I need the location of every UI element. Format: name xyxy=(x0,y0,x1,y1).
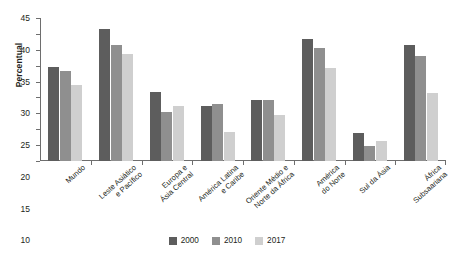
bar-2010 xyxy=(263,100,274,161)
x-axis-category-label: América do Norte xyxy=(313,163,347,196)
bar-2010 xyxy=(212,104,223,161)
legend-label: 2017 xyxy=(267,236,285,245)
bar-2010 xyxy=(60,71,71,161)
bar-group xyxy=(201,18,235,161)
bar-2017 xyxy=(122,54,133,161)
y-axis-tick: 40 xyxy=(36,34,40,35)
y-axis-tick-label: 40 xyxy=(21,46,30,55)
y-axis-tick-label: 35 xyxy=(21,77,30,86)
bar-2000 xyxy=(353,133,364,161)
bar-2010 xyxy=(111,45,122,161)
y-axis-tick: 5 xyxy=(36,145,40,146)
x-axis-category-label: Sul da Ásia xyxy=(357,163,392,195)
x-axis-category-label: Europa e Ásia Central xyxy=(152,163,195,204)
bar-group xyxy=(48,18,82,161)
chart-legend: 200020102017 xyxy=(0,236,454,245)
y-axis-tick: 25 xyxy=(36,82,40,83)
y-axis-tick-label: 25 xyxy=(21,141,30,150)
bar-2000 xyxy=(150,92,161,161)
legend-swatch-icon xyxy=(169,237,177,245)
bar-2017 xyxy=(274,115,285,161)
y-axis-tick-label: 20 xyxy=(21,173,30,182)
y-axis-line xyxy=(40,18,41,161)
bar-group xyxy=(404,18,438,161)
bar-2010 xyxy=(415,56,426,162)
y-axis-tick: 0 xyxy=(36,161,40,162)
bar-chart: Percentual 051015202530354045 MundoLeste… xyxy=(0,0,454,257)
x-axis-category-label: América Latina e Caribe xyxy=(196,163,246,210)
bar-2000 xyxy=(99,29,110,161)
x-axis-category-label: Leste Asiático e Pacífico xyxy=(97,163,144,208)
bar-2000 xyxy=(48,67,59,161)
bar-2017 xyxy=(325,68,336,161)
legend-swatch-icon xyxy=(212,237,220,245)
y-axis-tick: 30 xyxy=(36,66,40,67)
y-axis-tick: 35 xyxy=(36,50,40,51)
y-axis-tick: 15 xyxy=(36,113,40,114)
y-axis-tick: 20 xyxy=(36,97,40,98)
legend-label: 2000 xyxy=(181,236,199,245)
bar-2000 xyxy=(404,45,415,161)
bar-2017 xyxy=(427,93,438,161)
legend-label: 2010 xyxy=(224,236,242,245)
legend-item-2017[interactable]: 2017 xyxy=(255,236,285,245)
legend-item-2000[interactable]: 2000 xyxy=(169,236,199,245)
bar-2017 xyxy=(173,106,184,161)
legend-item-2010[interactable]: 2010 xyxy=(212,236,242,245)
y-axis-tick-label: 30 xyxy=(21,109,30,118)
bar-2000 xyxy=(302,39,313,161)
y-axis-tick-label: 15 xyxy=(21,204,30,213)
bar-group xyxy=(251,18,285,161)
x-axis-category-label: Mundo xyxy=(64,163,87,185)
x-axis-category-label: Oriente Médio e Norte da África xyxy=(244,163,296,213)
bar-group xyxy=(150,18,184,161)
bar-2017 xyxy=(224,132,235,161)
legend-swatch-icon xyxy=(255,237,263,245)
bar-2017 xyxy=(376,141,387,161)
bar-2010 xyxy=(364,146,375,161)
x-axis-labels: MundoLeste Asiático e PacíficoEuropa e Á… xyxy=(40,163,446,231)
y-axis-tick: 10 xyxy=(36,129,40,130)
plot-area: 051015202530354045 xyxy=(40,18,446,161)
y-axis-title: Percentual xyxy=(14,18,24,113)
bar-2010 xyxy=(161,112,172,161)
bar-2017 xyxy=(71,85,82,161)
bar-2000 xyxy=(251,100,262,161)
bar-group xyxy=(302,18,336,161)
x-axis-category-label: África Subsaariana xyxy=(405,163,449,205)
y-axis-tick-label: 45 xyxy=(21,14,30,23)
bar-group xyxy=(353,18,387,161)
y-axis-tick: 45 xyxy=(36,18,40,19)
bar-group xyxy=(99,18,133,161)
bar-2000 xyxy=(201,106,212,161)
bar-2010 xyxy=(314,48,325,161)
